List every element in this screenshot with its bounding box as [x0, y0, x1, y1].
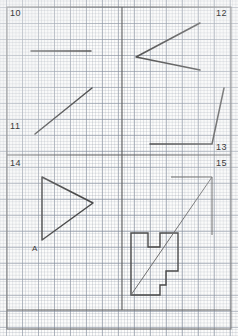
- figure-15-stepped-polygon: [131, 233, 178, 295]
- figure-label-12: 12: [216, 8, 227, 18]
- figure-label-11: 11: [10, 121, 21, 131]
- sheet-border: [7, 7, 231, 329]
- figure-11-segment: [35, 88, 92, 134]
- worksheet-page: 10 12 11 13 14 15 A: [0, 0, 238, 336]
- figure-12-chevron: [136, 23, 200, 70]
- figure-15-diagonal: [131, 177, 212, 295]
- figure-label-15: 15: [216, 158, 227, 168]
- vertex-label-a: A: [32, 244, 38, 253]
- figure-label-10: 10: [10, 8, 21, 18]
- figure-label-13: 13: [216, 142, 227, 152]
- figure-13-bent-line: [150, 88, 224, 144]
- figure-14-triangle: [42, 177, 93, 240]
- figure-label-14: 14: [10, 158, 21, 168]
- figures-layer: [0, 0, 238, 336]
